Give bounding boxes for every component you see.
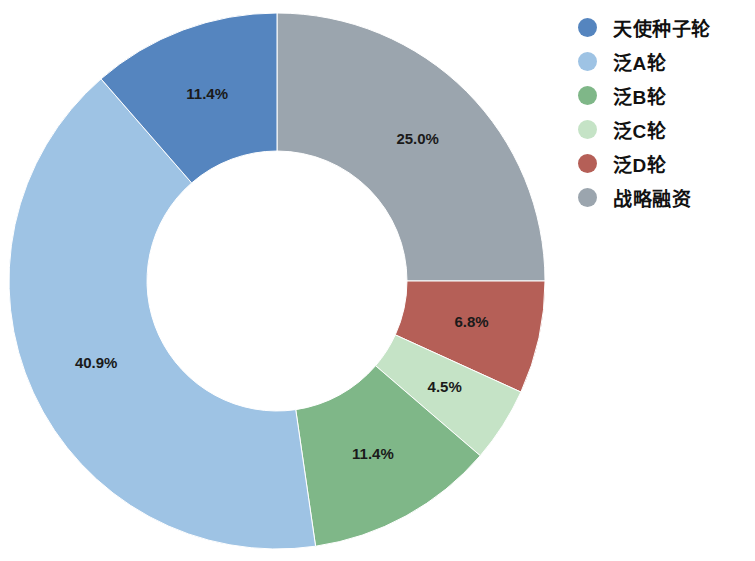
slice-value-label: 25.0% bbox=[396, 130, 439, 147]
legend-swatch-icon bbox=[578, 86, 597, 105]
legend-item-label: 战略融资 bbox=[613, 184, 691, 211]
slice-value-label: 11.4% bbox=[186, 85, 228, 102]
legend-item-label: 泛C轮 bbox=[613, 116, 666, 143]
legend-swatch-icon bbox=[578, 18, 597, 37]
slice-value-label: 40.9% bbox=[75, 354, 118, 371]
donut-chart-svg: 25.0%6.8%4.5%11.4%40.9%11.4% bbox=[0, 0, 560, 561]
slice-value-label: 4.5% bbox=[428, 378, 462, 395]
legend-item[interactable]: 泛B轮 bbox=[578, 78, 755, 112]
legend-swatch-icon bbox=[578, 120, 597, 139]
legend-item[interactable]: 天使种子轮 bbox=[578, 10, 755, 44]
legend-swatch-icon bbox=[578, 52, 597, 71]
legend-item[interactable]: 泛D轮 bbox=[578, 146, 755, 180]
donut-chart-figure: 25.0%6.8%4.5%11.4%40.9%11.4% 天使种子轮泛A轮泛B轮… bbox=[0, 0, 755, 561]
legend-swatch-icon bbox=[578, 154, 597, 173]
legend-item[interactable]: 泛A轮 bbox=[578, 44, 755, 78]
donut-slices-group bbox=[9, 13, 545, 549]
legend-item-label: 泛A轮 bbox=[613, 48, 666, 75]
slice-value-label: 11.4% bbox=[352, 445, 394, 462]
legend-item[interactable]: 战略融资 bbox=[578, 180, 755, 214]
legend-item-label: 泛D轮 bbox=[613, 150, 666, 177]
legend-item-label: 泛B轮 bbox=[613, 82, 666, 109]
chart-plot-area: 25.0%6.8%4.5%11.4%40.9%11.4% bbox=[0, 0, 560, 561]
slice-value-label: 6.8% bbox=[454, 313, 488, 330]
legend-item[interactable]: 泛C轮 bbox=[578, 112, 755, 146]
legend-item-label: 天使种子轮 bbox=[613, 14, 711, 41]
legend-swatch-icon bbox=[578, 188, 597, 207]
chart-legend: 天使种子轮泛A轮泛B轮泛C轮泛D轮战略融资 bbox=[578, 10, 755, 214]
